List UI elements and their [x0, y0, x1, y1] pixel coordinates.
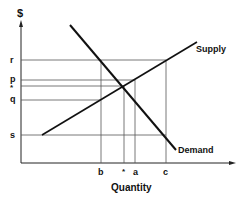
- y-tick-r: r: [10, 56, 14, 65]
- supply-demand-diagram: $ r p * q s b * a c Quantity Supply Dema…: [0, 0, 247, 199]
- x-axis-label: Quantity: [111, 183, 152, 193]
- y-tick-q: q: [10, 95, 16, 104]
- y-tick-star: *: [10, 84, 13, 92]
- x-tick-a: a: [133, 168, 138, 177]
- x-tick-star: *: [122, 168, 125, 176]
- supply-curve: [42, 42, 197, 135]
- x-axis-arrow-icon: [229, 161, 236, 165]
- y-tick-s: s: [10, 131, 15, 140]
- x-tick-c: c: [163, 168, 168, 177]
- y-axis-label: $: [17, 8, 23, 19]
- x-tick-b: b: [98, 168, 104, 177]
- demand-label: Demand: [178, 146, 214, 155]
- demand-curve: [70, 25, 176, 150]
- y-axis-arrow-icon: [19, 20, 23, 27]
- supply-label: Supply: [196, 45, 226, 54]
